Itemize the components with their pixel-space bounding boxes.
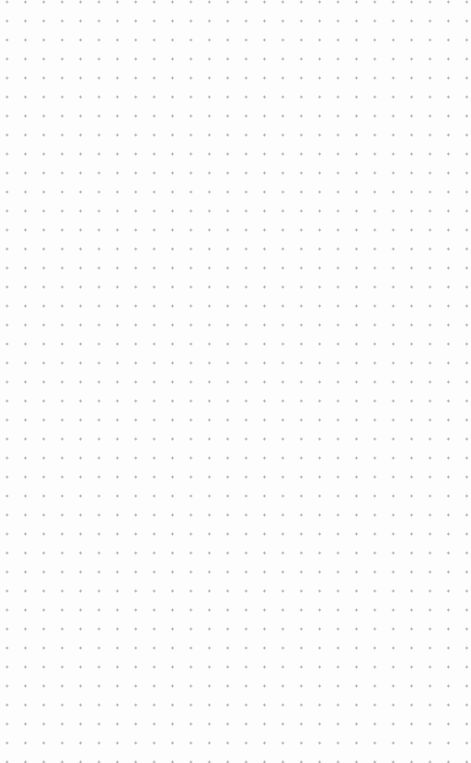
dot-grid-canvas[interactable] [0, 0, 471, 763]
